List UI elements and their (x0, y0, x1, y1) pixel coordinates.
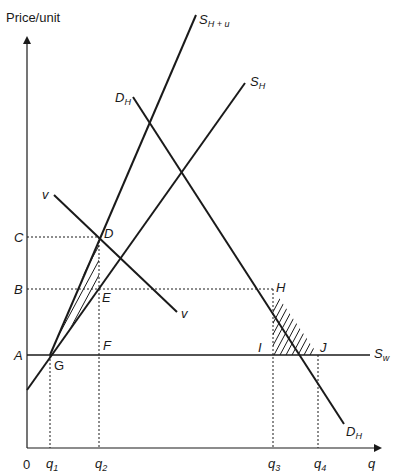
hatch-gde (40, 225, 150, 355)
label-v-bottom: v (181, 306, 189, 321)
label-sh: SH (250, 74, 266, 91)
label-shu: SH + u (199, 12, 229, 29)
label-q3: q3 (268, 456, 280, 473)
label-h: H (276, 280, 286, 295)
chart-canvas: Price/unit q 0 C B A D E F G H I J q1 q2… (0, 0, 394, 475)
dh-line (133, 97, 344, 424)
label-c: C (14, 230, 24, 245)
label-q2: q2 (95, 456, 107, 473)
label-d: D (104, 226, 113, 241)
hatch-hij (250, 280, 350, 355)
label-v-top: v (42, 187, 50, 202)
label-e: E (102, 290, 111, 305)
label-dh-bottom: DH (346, 424, 362, 441)
label-f: F (103, 338, 112, 353)
shu-line (50, 15, 196, 355)
label-dh-top: DH (115, 90, 131, 107)
label-q1: q1 (46, 456, 58, 473)
label-i: I (258, 340, 262, 355)
x-axis-label: q (368, 456, 376, 471)
label-q4: q4 (314, 456, 326, 473)
label-b: B (14, 282, 23, 297)
label-g: G (54, 358, 64, 373)
label-sw: Sw (374, 346, 390, 363)
label-j: J (319, 340, 327, 355)
y-axis-label: Price/unit (6, 10, 61, 25)
v-line (54, 195, 177, 312)
origin-label: 0 (23, 457, 30, 472)
label-a: A (13, 348, 23, 363)
